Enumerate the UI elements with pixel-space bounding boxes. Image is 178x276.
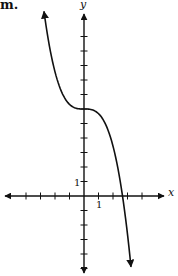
cubic-curve (44, 11, 131, 266)
graph (0, 0, 178, 276)
